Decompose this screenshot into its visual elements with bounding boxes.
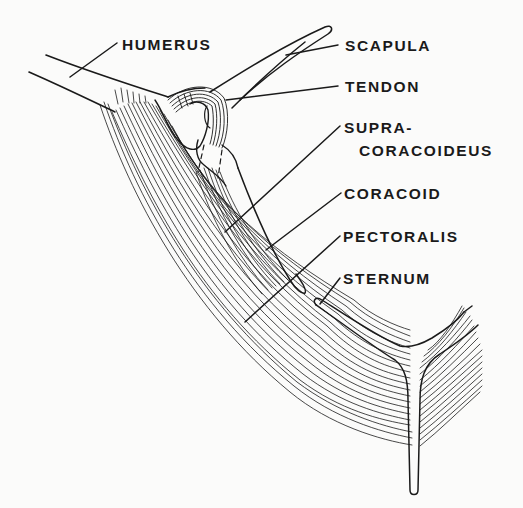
label-pectoralis: PECTORALIS	[343, 229, 459, 245]
diagram-artwork	[0, 0, 523, 508]
scapula-bone	[210, 26, 332, 108]
leader-tendon	[226, 86, 338, 100]
leader-pectoralis	[245, 236, 340, 322]
label-scapula: SCAPULA	[345, 38, 431, 54]
humerus-bone	[29, 55, 205, 112]
leader-scapula	[286, 45, 338, 55]
label-coracoid: CORACOID	[344, 186, 441, 202]
label-supracoracoideus-line1: SUPRA-	[344, 120, 413, 136]
leader-coracoid	[266, 193, 341, 250]
label-humerus: HUMERUS	[122, 37, 212, 53]
label-tendon: TENDON	[345, 79, 420, 95]
label-supracoracoideus-line2: CORACOIDEUS	[359, 143, 493, 159]
label-sternum: STERNUM	[343, 271, 431, 287]
pectoralis-muscle-right	[420, 306, 482, 446]
anatomy-diagram: HUMERUS SCAPULA TENDON SUPRA- CORACOIDEU…	[0, 0, 523, 508]
